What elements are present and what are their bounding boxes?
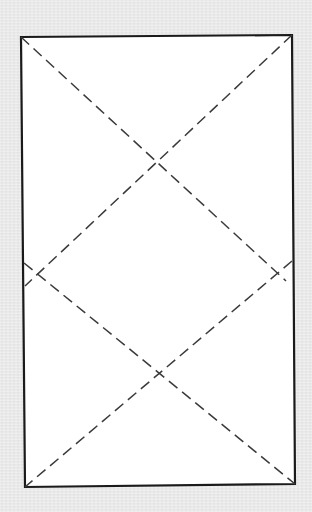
geometry-figure <box>0 0 312 512</box>
rectangle <box>21 35 295 487</box>
